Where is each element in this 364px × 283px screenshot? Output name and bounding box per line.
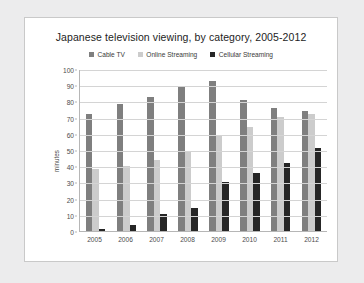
gridline: [80, 167, 327, 168]
gridline: [80, 70, 327, 71]
chart-title: Japanese television viewing, by category…: [25, 31, 337, 43]
legend-item[interactable]: Cable TV: [89, 51, 125, 58]
y-axis-tick-label: 0: [70, 229, 74, 236]
legend-item[interactable]: Online Streaming: [138, 51, 197, 58]
x-axis-tick-label: 2005: [79, 236, 110, 243]
bar[interactable]: [222, 182, 229, 231]
x-axis-tick-label: 2010: [234, 236, 265, 243]
y-axis-tick-label: 40: [67, 164, 74, 171]
y-axis-tick-mark: [75, 199, 78, 200]
x-axis-tick-label: 2008: [172, 236, 203, 243]
y-axis-tick-label: 70: [67, 115, 74, 122]
bar[interactable]: [191, 208, 198, 231]
bar[interactable]: [123, 166, 130, 231]
y-axis-tick-mark: [75, 70, 78, 71]
y-axis-tick-label: 20: [67, 196, 74, 203]
legend-label: Online Streaming: [146, 51, 197, 58]
x-axis-tick-label: 2011: [265, 236, 296, 243]
y-axis-tick-mark: [75, 134, 78, 135]
gridline: [80, 183, 327, 184]
y-axis-tick-mark: [75, 102, 78, 103]
y-axis-tick-label: 90: [67, 83, 74, 90]
legend-label: Cellular Streaming: [219, 51, 273, 58]
y-axis-tick-mark: [75, 215, 78, 216]
gridline: [80, 200, 327, 201]
y-axis-ticks: 1009080706050403020100: [55, 70, 77, 232]
y-axis-tick-label: 80: [67, 99, 74, 106]
legend-item[interactable]: Cellular Streaming: [210, 51, 273, 58]
y-axis-tick-mark: [75, 86, 78, 87]
y-axis-tick-mark: [75, 167, 78, 168]
y-axis-tick-label: 60: [67, 131, 74, 138]
y-axis-tick-label: 50: [67, 148, 74, 155]
bar[interactable]: [284, 163, 291, 231]
y-axis-tick-label: 30: [67, 180, 74, 187]
bar[interactable]: [99, 229, 106, 231]
chart-legend: Cable TVOnline StreamingCellular Streami…: [25, 51, 337, 58]
slide-card: Japanese television viewing, by category…: [24, 17, 338, 262]
legend-swatch-icon: [210, 52, 215, 57]
y-axis-tick-mark: [75, 151, 78, 152]
legend-swatch-icon: [138, 52, 143, 57]
x-axis-tick-label: 2009: [203, 236, 234, 243]
y-axis-tick-label: 10: [67, 212, 74, 219]
bar[interactable]: [315, 148, 322, 231]
gridline: [80, 102, 327, 103]
gridline: [80, 151, 327, 152]
x-axis-tick-label: 2007: [141, 236, 172, 243]
plot-area: [79, 70, 327, 232]
gridline: [80, 216, 327, 217]
y-axis-tick-label: 100: [63, 67, 74, 74]
x-axis-labels: 20052006200720082009201020112012: [79, 236, 327, 243]
gridline: [80, 135, 327, 136]
gridline: [80, 119, 327, 120]
x-axis-tick-label: 2006: [110, 236, 141, 243]
x-axis-tick-label: 2012: [296, 236, 327, 243]
plot-wrapper: minutes 1009080706050403020100 200520062…: [43, 70, 327, 251]
y-axis-tick-mark: [75, 232, 78, 233]
bar[interactable]: [253, 173, 260, 231]
legend-label: Cable TV: [97, 51, 124, 58]
legend-swatch-icon: [89, 52, 94, 57]
gridline: [80, 86, 327, 87]
y-axis-tick-mark: [75, 118, 78, 119]
y-axis-tick-mark: [75, 183, 78, 184]
bar[interactable]: [130, 225, 137, 231]
